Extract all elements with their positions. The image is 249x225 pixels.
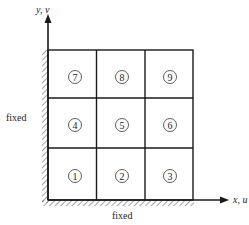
bottom-fixed-label: fixed: [112, 210, 133, 221]
element-8-label: 8: [120, 72, 125, 83]
x-axis-arrow-icon: [220, 197, 229, 204]
element-2-label: 2: [120, 171, 125, 182]
element-3-label: 3: [168, 171, 173, 182]
element-7-label: 7: [73, 72, 78, 83]
left-fixed-label: fixed: [6, 112, 27, 123]
bottom-fixed-support-hatch: [42, 200, 194, 206]
y-axis-label: y, v: [35, 4, 50, 15]
element-6-label: 6: [168, 120, 173, 131]
element-1-label: 1: [73, 171, 78, 182]
finite-element-mesh-diagram: 1 2 3 4 5 6 7 8 9 y, v x, u fixed fixed: [0, 0, 249, 225]
left-fixed-support-hatch: [42, 50, 48, 203]
element-5-label: 5: [120, 120, 125, 131]
element-9-label: 9: [168, 72, 173, 83]
x-axis-label: x, u: [232, 194, 247, 205]
y-axis-arrow-icon: [45, 14, 52, 23]
element-4-label: 4: [73, 120, 78, 131]
